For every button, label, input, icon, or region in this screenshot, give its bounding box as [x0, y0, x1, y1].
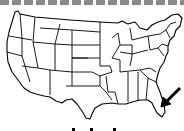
caption-mark [72, 128, 75, 131]
caption-mark [90, 128, 93, 131]
cropped-caption [0, 126, 184, 131]
arrow-icon [161, 88, 180, 107]
us-map [0, 0, 184, 131]
us-outline [7, 11, 182, 119]
caption-mark [113, 128, 116, 131]
